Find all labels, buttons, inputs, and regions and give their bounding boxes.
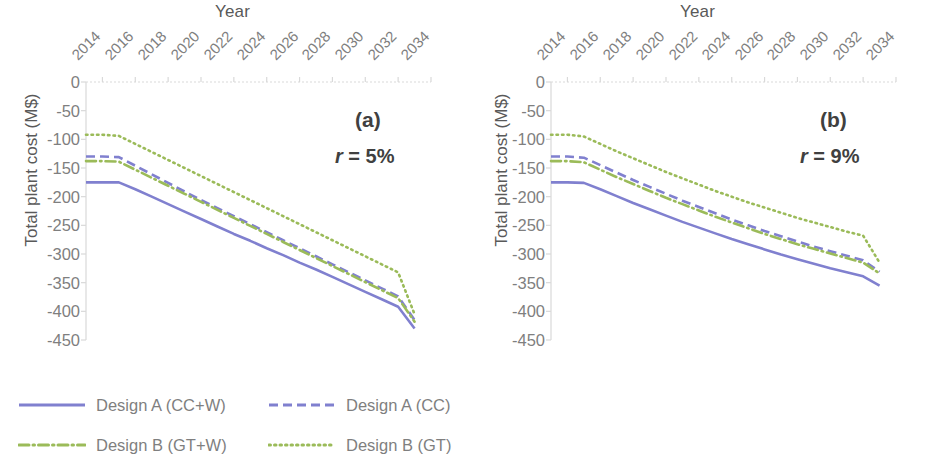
y-axis-tick-label: -400 (22, 302, 80, 321)
y-axis-tick-label: 0 (22, 73, 80, 92)
y-axis-tick-label: -450 (487, 331, 545, 350)
figure-two-panel-line-charts: Year Total plant cost (M$) 2014201620182… (0, 0, 930, 463)
legend-item-label: Design A (CC+W) (96, 396, 226, 415)
rate-value-b: = 9% (808, 145, 860, 167)
legend-item[interactable]: Design A (CC+W) (18, 390, 226, 420)
legend-line-swatch-icon (18, 398, 86, 412)
x-axis-tick-label: 2026 (731, 27, 767, 63)
legend-item[interactable]: Design B (GT+W) (18, 430, 227, 460)
x-axis-tick-label: 2030 (796, 27, 832, 63)
legend-item-label: Design B (GT) (346, 436, 451, 455)
x-axis-title-a: Year (0, 2, 465, 22)
series-line (551, 161, 880, 273)
x-axis-tick-labels-a: 2014201620182020202220242026202820302032… (86, 20, 431, 80)
legend-line-swatch-icon (268, 398, 336, 412)
x-axis-tick-label: 2014 (68, 27, 104, 63)
x-axis-tick-labels-b: 2014201620182020202220242026202820302032… (551, 20, 896, 80)
y-axis-tick-label: -250 (487, 216, 545, 235)
chart-legend: Design A (CC+W)Design A (CC)Design B (GT… (0, 386, 560, 463)
y-axis-tick-labels-b: 0-50-100-150-200-250-300-350-400-450 (485, 82, 545, 340)
x-axis-tick-label: 2024 (698, 27, 734, 63)
rate-value-a: = 5% (343, 145, 395, 167)
panel-label-a: (a) (355, 108, 381, 132)
x-axis-tick-label: 2014 (533, 27, 569, 63)
y-axis-tick-labels-a: 0-50-100-150-200-250-300-350-400-450 (20, 82, 80, 340)
x-axis-tick-label: 2028 (763, 27, 799, 63)
rate-variable-b: r (800, 145, 808, 167)
y-axis-tick-label: 0 (487, 73, 545, 92)
legend-item-label: Design A (CC) (346, 396, 451, 415)
series-line (86, 182, 415, 328)
y-axis-tick-label: -300 (487, 245, 545, 264)
panel-rate-a: r = 5% (335, 145, 395, 168)
x-axis-tick-label: 2032 (364, 27, 400, 63)
x-axis-tick-label: 2018 (599, 27, 635, 63)
chart-panel-b: Year Total plant cost (M$) 2014201620182… (465, 0, 930, 380)
legend-line-swatch-icon (268, 438, 336, 452)
x-axis-tick-label: 2032 (829, 27, 865, 63)
legend-line-swatch-icon (18, 438, 86, 452)
x-axis-tick-label: 2016 (566, 27, 602, 63)
y-axis-tick-label: -250 (22, 216, 80, 235)
x-axis-tick-label: 2016 (101, 27, 137, 63)
chart-panel-a: Year Total plant cost (M$) 2014201620182… (0, 0, 465, 380)
series-line (551, 182, 880, 285)
legend-item-label: Design B (GT+W) (96, 436, 227, 455)
rate-variable-a: r (335, 145, 343, 167)
y-axis-tick-label: -450 (22, 331, 80, 350)
y-axis-tick-label: -100 (22, 130, 80, 149)
x-axis-tick-label: 2020 (167, 27, 203, 63)
x-axis-tick-label: 2022 (200, 27, 236, 63)
y-axis-tick-label: -100 (487, 130, 545, 149)
x-axis-tick-label: 2022 (665, 27, 701, 63)
panel-rate-b: r = 9% (800, 145, 860, 168)
legend-item[interactable]: Design B (GT) (268, 430, 451, 460)
x-axis-tick-label: 2026 (266, 27, 302, 63)
panel-label-b: (b) (820, 108, 847, 132)
x-axis-tick-label: 2034 (862, 27, 898, 63)
x-axis-tick-label: 2020 (632, 27, 668, 63)
y-axis-tick-label: -200 (22, 187, 80, 206)
x-axis-tick-label: 2028 (298, 27, 334, 63)
y-axis-tick-label: -150 (22, 159, 80, 178)
x-axis-title-b: Year (465, 2, 930, 22)
y-axis-tick-label: -400 (487, 302, 545, 321)
y-axis-tick-label: -350 (22, 273, 80, 292)
y-axis-tick-label: -50 (22, 101, 80, 120)
y-axis-tick-label: -350 (487, 273, 545, 292)
legend-item[interactable]: Design A (CC) (268, 390, 451, 420)
y-axis-tick-label: -300 (22, 245, 80, 264)
y-axis-tick-label: -150 (487, 159, 545, 178)
x-axis-tick-label: 2024 (233, 27, 269, 63)
y-axis-tick-label: -200 (487, 187, 545, 206)
y-axis-tick-label: -50 (487, 101, 545, 120)
x-axis-tick-label: 2030 (331, 27, 367, 63)
series-line (86, 157, 415, 320)
x-axis-tick-label: 2018 (134, 27, 170, 63)
x-axis-tick-label: 2034 (397, 27, 433, 63)
